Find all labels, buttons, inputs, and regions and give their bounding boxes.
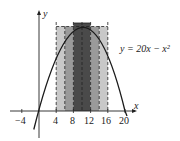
x-axis-label: x	[133, 100, 139, 111]
y-axis-label: y	[42, 8, 48, 19]
tick-label-8: 8	[70, 115, 75, 126]
rect-light-left	[56, 27, 65, 112]
riemann-figure: −4 4 8 12 16 20 x y y = 20x − x²	[0, 0, 180, 141]
tick-label-20: 20	[119, 115, 129, 126]
tick-label-12: 12	[84, 115, 94, 126]
tick-label-16: 16	[101, 115, 111, 126]
y-axis-arrow-icon	[37, 10, 41, 15]
tick-label-neg4: −4	[15, 115, 26, 126]
function-label: y = 20x − x²	[119, 43, 171, 54]
tick-label-4: 4	[53, 115, 58, 126]
rect-medium-right	[91, 27, 100, 112]
rect-light-right	[99, 27, 108, 112]
